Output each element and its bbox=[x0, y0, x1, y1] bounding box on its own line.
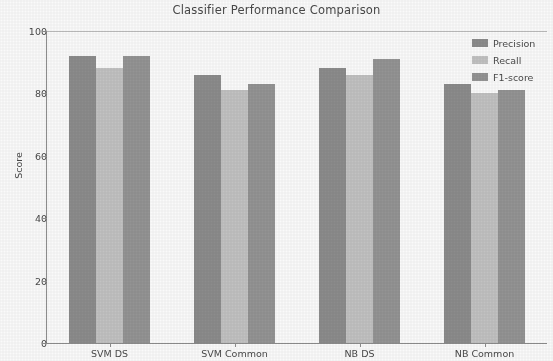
legend-label: Precision bbox=[493, 38, 535, 49]
legend-item: Recall bbox=[472, 53, 552, 67]
y-tick-mark bbox=[43, 343, 47, 344]
bar bbox=[248, 84, 275, 343]
x-tick-label: NB Common bbox=[455, 348, 514, 359]
bar bbox=[373, 59, 400, 343]
x-axis-spine bbox=[46, 343, 547, 344]
y-axis-label: Score bbox=[13, 126, 24, 206]
legend-swatch-icon bbox=[472, 56, 488, 64]
legend-label: F1-score bbox=[493, 72, 533, 83]
bar bbox=[96, 68, 123, 343]
x-tick-mark bbox=[235, 343, 236, 347]
legend-swatch-icon bbox=[472, 73, 488, 81]
bar bbox=[498, 90, 525, 343]
x-tick-label: SVM Common bbox=[201, 348, 268, 359]
page-title: Classifier Performance Comparison bbox=[0, 3, 553, 17]
x-tick-mark bbox=[360, 343, 361, 347]
legend-item: Precision bbox=[472, 36, 552, 50]
bar bbox=[471, 93, 498, 343]
legend-item: F1-score bbox=[472, 70, 552, 84]
bar bbox=[319, 68, 346, 343]
x-tick-mark bbox=[110, 343, 111, 347]
bar bbox=[444, 84, 471, 343]
bar bbox=[69, 56, 96, 343]
x-tick-label: SVM DS bbox=[91, 348, 128, 359]
chart-figure: Classifier Performance Comparison 020406… bbox=[0, 0, 553, 361]
legend-label: Recall bbox=[493, 55, 521, 66]
x-tick-label: NB DS bbox=[345, 348, 375, 359]
bar bbox=[221, 90, 248, 343]
bar bbox=[194, 75, 221, 343]
bar bbox=[346, 75, 373, 343]
x-tick-mark bbox=[485, 343, 486, 347]
bar bbox=[123, 56, 150, 343]
chart-legend: PrecisionRecallF1-score bbox=[472, 36, 552, 87]
legend-swatch-icon bbox=[472, 39, 488, 47]
